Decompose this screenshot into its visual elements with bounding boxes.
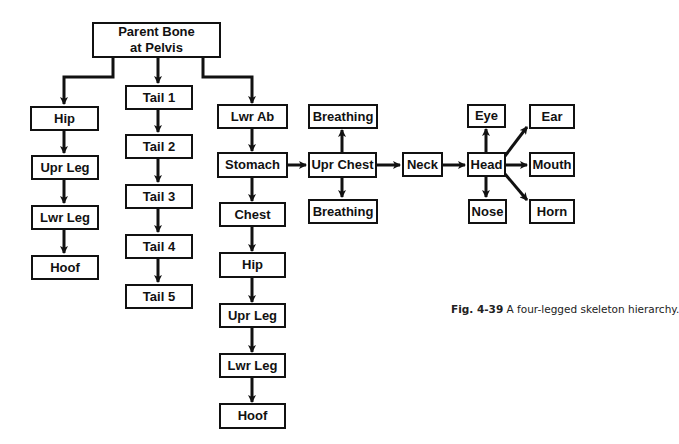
figure-caption: Fig. 4-39 A four-legged skeleton hierarc… (451, 303, 679, 315)
node-tail-3: Tail 3 (125, 184, 193, 209)
node-tail-4: Tail 4 (125, 234, 193, 259)
node-head: Head (467, 152, 506, 177)
node-hip-left: Hip (30, 106, 99, 131)
node-tail-2: Tail 2 (125, 134, 193, 159)
node-lwr-ab: Lwr Ab (217, 104, 288, 129)
node-nose: Nose (468, 199, 507, 224)
node-ear: Ear (529, 104, 575, 129)
node-eye: Eye (467, 104, 506, 128)
figure-label: Fig. 4-39 (451, 303, 503, 315)
node-lwr-leg-left: Lwr Leg (31, 205, 99, 230)
node-hip-right: Hip (219, 252, 286, 278)
node-label: Parent Bone (118, 24, 195, 40)
node-upr-leg-left: Upr Leg (31, 155, 99, 180)
node-hoof-right: Hoof (219, 403, 286, 429)
node-tail-1: Tail 1 (125, 85, 193, 110)
node-stomach: Stomach (217, 152, 288, 178)
node-upr-chest: Upr Chest (308, 152, 377, 178)
node-mouth: Mouth (529, 152, 575, 177)
node-chest: Chest (219, 202, 286, 227)
node-hoof-left: Hoof (31, 255, 99, 280)
node-horn: Horn (529, 199, 575, 224)
node-tail-5: Tail 5 (125, 284, 193, 309)
node-lwr-leg-right: Lwr Leg (219, 353, 286, 378)
node-breathing-top: Breathing (308, 104, 378, 129)
node-upr-leg-right: Upr Leg (219, 303, 286, 328)
node-label: at Pelvis (130, 40, 183, 56)
node-neck: Neck (402, 152, 443, 177)
figure-caption-text: A four-legged skeleton hierarchy. (503, 303, 679, 315)
node-breathing-bottom: Breathing (308, 199, 378, 224)
node-parent-bone-pelvis: Parent Bone at Pelvis (92, 22, 221, 58)
